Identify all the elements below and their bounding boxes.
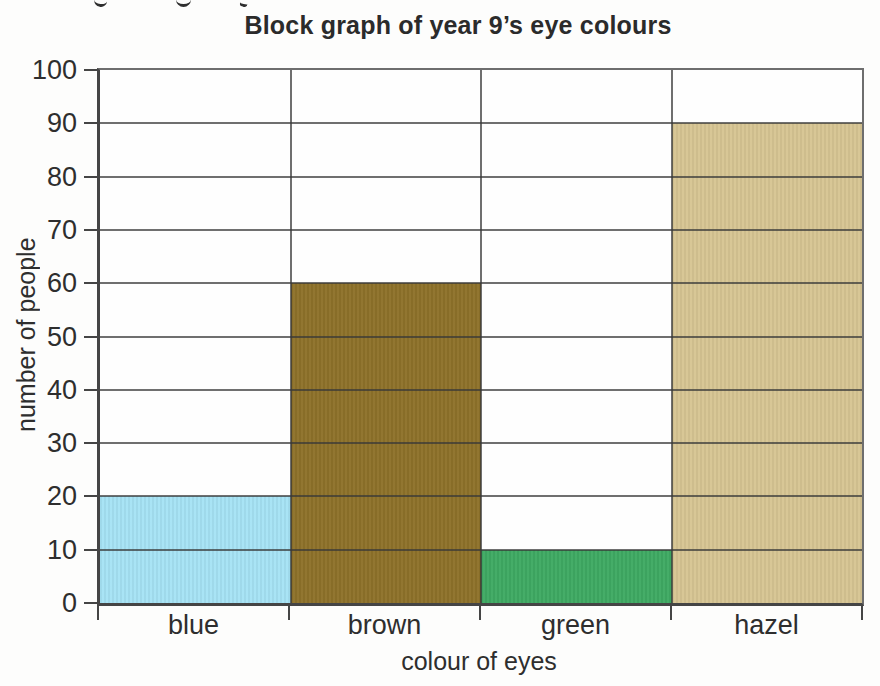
y-tick-mark [84, 229, 97, 231]
y-tick-label-80: 80 [47, 163, 77, 190]
plot-area [97, 68, 864, 606]
y-tick-mark [84, 389, 97, 391]
category-separator [290, 70, 292, 603]
x-category-label-hazel: hazel [671, 610, 862, 641]
chart-title: Block graph of year 9’s eye colours [76, 11, 840, 40]
y-tick-label-60: 60 [47, 270, 77, 297]
y-tick-mark [84, 176, 97, 178]
y-tick-label-100: 100 [32, 57, 77, 84]
y-tick-mark [84, 495, 97, 497]
y-tick-label-50: 50 [47, 323, 77, 350]
y-tick-label-0: 0 [62, 590, 77, 617]
y-tick-mark [84, 122, 97, 124]
y-tick-mark [84, 336, 97, 338]
y-tick-mark [84, 282, 97, 284]
y-tick-labels: 0102030405060708090100 [0, 70, 97, 603]
x-category-label-green: green [480, 610, 671, 641]
y-tick-label-10: 10 [47, 536, 77, 563]
y-tick-mark [84, 602, 97, 604]
y-tick-label-90: 90 [47, 110, 77, 137]
y-tick-label-20: 20 [47, 483, 77, 510]
x-category-label-brown: brown [289, 610, 480, 641]
y-tick-mark [84, 549, 97, 551]
y-tick-label-30: 30 [47, 430, 77, 457]
bar-green [481, 550, 672, 603]
y-tick-label-40: 40 [47, 376, 77, 403]
cropped-descender-mark [94, 0, 108, 7]
bar-hazel [672, 123, 863, 603]
cropped-text-remnant [0, 0, 880, 7]
category-separator [480, 70, 482, 603]
category-separator [671, 70, 673, 603]
y-tick-label-70: 70 [47, 216, 77, 243]
cropped-descender-mark [176, 0, 191, 7]
y-tick-mark [84, 442, 97, 444]
cropped-descender-mark [239, 0, 249, 7]
y-tick-mark [84, 69, 97, 71]
x-category-label-blue: blue [98, 610, 289, 641]
x-axis-title: colour of eyes [97, 647, 861, 676]
x-category-labels: bluebrowngreenhazel [98, 610, 862, 641]
